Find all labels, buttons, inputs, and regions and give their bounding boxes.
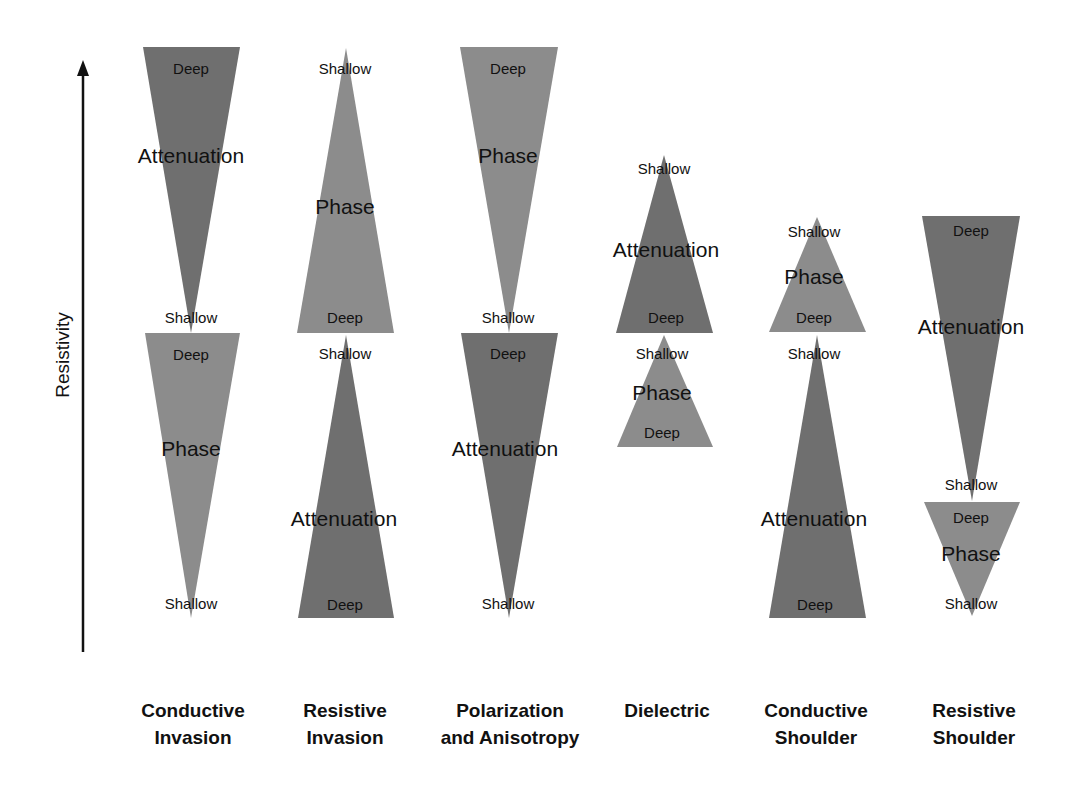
depth-label: Deep (796, 309, 832, 326)
depth-label: Deep (490, 345, 526, 362)
depth-label: Deep (327, 596, 363, 613)
depth-label: Shallow (788, 223, 841, 240)
triangle-phase (145, 333, 240, 618)
depth-label: Deep (953, 509, 989, 526)
depth-label: Shallow (165, 595, 218, 612)
triangle-name: Attenuation (138, 144, 244, 167)
triangle-name: Attenuation (613, 238, 719, 261)
axis-label: Resistivity (52, 312, 73, 398)
resistivity-axis: Resistivity (52, 60, 89, 652)
column-label-resistive-shoulder: Resistive Shoulder (889, 697, 1059, 751)
depth-label: Shallow (319, 345, 372, 362)
triangle-phase (297, 48, 394, 333)
label-line: Shoulder (731, 724, 901, 751)
depth-label: Shallow (482, 595, 535, 612)
depth-label: Shallow (945, 476, 998, 493)
label-line: Resistive (260, 697, 430, 724)
triangle-phase (460, 47, 558, 333)
column-conductive-shoulder: Shallow Phase Deep Shallow Attenuation D… (761, 217, 867, 618)
label-line: Polarization (425, 697, 595, 724)
triangle-name: Phase (784, 265, 844, 288)
triangle-name: Attenuation (291, 507, 397, 530)
triangle-name: Phase (632, 381, 692, 404)
label-line: Dielectric (582, 697, 752, 724)
column-label-resistive-invasion: Resistive Invasion (260, 697, 430, 751)
column-resistive-invasion: Shallow Phase Deep Shallow Attenuation D… (291, 48, 397, 618)
triangle-name: Attenuation (918, 315, 1024, 338)
depth-label: Deep (490, 60, 526, 77)
depth-label: Deep (644, 424, 680, 441)
depth-label: Deep (327, 309, 363, 326)
label-line: Conductive (108, 697, 278, 724)
column-polarization-anisotropy: Deep Phase Shallow Deep Attenuation Shal… (452, 47, 558, 618)
column-resistive-shoulder: Deep Attenuation Shallow Deep Phase Shal… (918, 216, 1024, 616)
triangle-name: Phase (941, 542, 1001, 565)
label-line: Resistive (889, 697, 1059, 724)
depth-label: Deep (797, 596, 833, 613)
column-label-conductive-invasion: Conductive Invasion (108, 697, 278, 751)
label-line: Invasion (260, 724, 430, 751)
depth-label: Deep (173, 346, 209, 363)
column-label-conductive-shoulder: Conductive Shoulder (731, 697, 901, 751)
arrow-up-icon (77, 60, 89, 76)
label-line: Shoulder (889, 724, 1059, 751)
depth-label: Deep (173, 60, 209, 77)
label-line: Conductive (731, 697, 901, 724)
triangle-name: Phase (161, 437, 221, 460)
diagram-canvas: Resistivity Deep Attenuation Shallow Dee… (0, 0, 1076, 793)
column-label-polarization-anisotropy: Polarization and Anisotropy (425, 697, 595, 751)
depth-label: Deep (648, 309, 684, 326)
depth-label: Deep (953, 222, 989, 239)
triangle-name: Attenuation (761, 507, 867, 530)
triangle-name: Phase (315, 195, 375, 218)
depth-label: Shallow (788, 345, 841, 362)
triangle-attenuation (143, 47, 240, 333)
triangle-attenuation (461, 333, 558, 618)
column-dielectric: Shallow Attenuation Deep Shallow Phase D… (613, 155, 719, 447)
triangle-name: Attenuation (452, 437, 558, 460)
triangle-name: Phase (478, 144, 538, 167)
triangle-attenuation (298, 335, 394, 618)
depth-label: Shallow (482, 309, 535, 326)
triangle-attenuation (769, 335, 866, 618)
depth-label: Shallow (638, 160, 691, 177)
triangle-attenuation (922, 216, 1020, 501)
depth-label: Shallow (636, 345, 689, 362)
column-conductive-invasion: Deep Attenuation Shallow Deep Phase Shal… (138, 47, 244, 618)
depth-label: Shallow (319, 60, 372, 77)
label-line: and Anisotropy (425, 724, 595, 751)
label-line: Invasion (108, 724, 278, 751)
depth-label: Shallow (945, 595, 998, 612)
column-label-dielectric: Dielectric (582, 697, 752, 724)
depth-label: Shallow (165, 309, 218, 326)
